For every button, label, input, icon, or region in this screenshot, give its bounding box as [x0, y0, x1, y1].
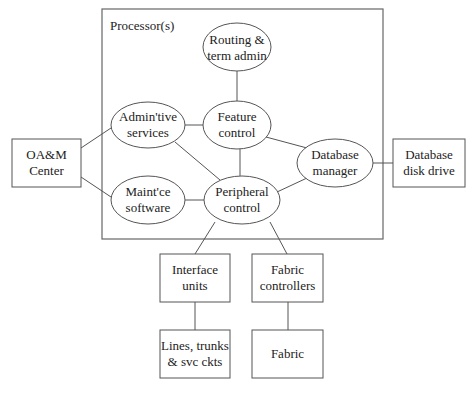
node-diskdrive: Database disk drive [393, 139, 465, 187]
node-label: Lines, trunks [161, 338, 229, 353]
node-label: Fabric [271, 262, 304, 277]
node-label: Database [405, 147, 453, 162]
node-maint: Maint'ce software [111, 176, 185, 224]
node-fabric: Fabric [252, 330, 323, 378]
node-label: Center [29, 163, 64, 178]
edge-admin-peripheral [175, 142, 220, 180]
node-label: services [127, 125, 169, 140]
edge-peripheral-fabriccontrollers [270, 222, 287, 254]
node-label: Routing & [209, 32, 264, 47]
edge-peripheral-interface [195, 222, 215, 254]
node-label: Admin'tive [119, 109, 177, 124]
node-label: manager [313, 163, 358, 178]
node-interface: Interface units [160, 254, 230, 302]
ellipse-shape [203, 23, 271, 71]
node-label: control [224, 200, 261, 215]
node-label: Interface [172, 262, 218, 277]
node-dbmanager: Database manager [297, 139, 373, 187]
node-label: Fabric [271, 346, 304, 361]
node-oam: OA&M Center [12, 139, 81, 187]
node-label: units [182, 278, 207, 293]
processor-label: Processor(s) [110, 18, 174, 33]
node-label: Peripheral [215, 184, 269, 199]
edge-feature-dbmanager [266, 137, 307, 148]
node-peripheral: Peripheral control [204, 176, 280, 224]
node-label: & svc ckts [168, 354, 223, 369]
edge-oam-admin [81, 128, 111, 148]
node-feature: Feature control [203, 101, 271, 149]
node-label: software [126, 200, 171, 215]
node-admin: Admin'tive services [111, 102, 185, 148]
node-label: Feature [218, 109, 257, 124]
node-label: term admin [207, 48, 267, 63]
node-label: OA&M [26, 147, 67, 162]
node-label: Maint'ce [126, 184, 171, 199]
node-label: Database [311, 147, 359, 162]
node-fabriccontrollers: Fabric controllers [252, 254, 323, 302]
node-label: control [219, 125, 256, 140]
node-label: disk drive [403, 163, 455, 178]
edge-oam-maint [81, 177, 111, 197]
node-label: controllers [260, 278, 316, 293]
edge-peripheral-dbmanager [277, 178, 307, 192]
node-lines: Lines, trunks & svc ckts [160, 330, 230, 378]
node-routing: Routing & term admin [203, 23, 271, 71]
architecture-diagram: Processor(s) Routing & term admin Admin'… [0, 0, 475, 393]
